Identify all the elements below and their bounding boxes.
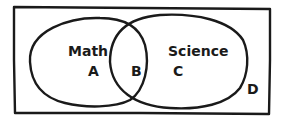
region-label-a: A [88, 63, 99, 79]
region-label-d: D [247, 81, 259, 97]
set-name-science: Science [168, 43, 228, 59]
set-name-math: Math [68, 43, 108, 59]
region-label-c: C [173, 63, 183, 79]
science-set-ellipse [110, 15, 247, 109]
region-label-b: B [131, 63, 142, 79]
venn-diagram: Math A B Science C D [0, 0, 282, 122]
